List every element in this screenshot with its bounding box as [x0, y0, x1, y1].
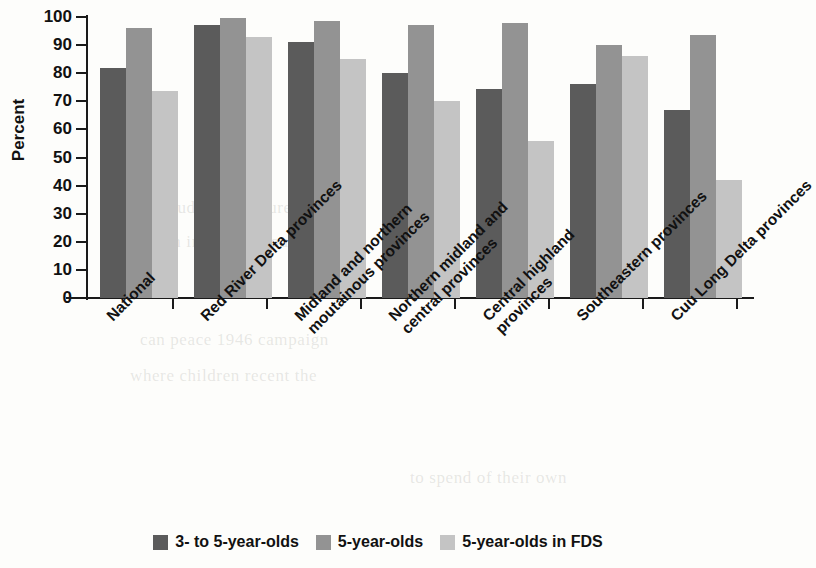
x-category-label: National: [103, 269, 159, 325]
legend-item[interactable]: 3- to 5-year-olds: [153, 533, 299, 551]
legend-swatch-icon: [316, 535, 331, 550]
legend-label: 5-year-olds in FDS: [462, 533, 602, 551]
legend-label: 5-year-olds: [338, 533, 423, 551]
legend-swatch-icon: [440, 535, 455, 550]
legend-label: 3- to 5-year-olds: [175, 533, 299, 551]
legend-item[interactable]: 5-year-olds in FDS: [440, 533, 602, 551]
legend-item[interactable]: 5-year-olds: [316, 533, 423, 551]
chart-legend: 3- to 5-year-olds5-year-olds5-year-olds …: [0, 533, 756, 551]
legend-swatch-icon: [153, 535, 168, 550]
